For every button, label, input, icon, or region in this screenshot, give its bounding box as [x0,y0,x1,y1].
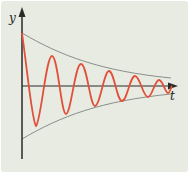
lower-envelope [22,94,171,139]
y-axis-label: y [9,11,16,25]
oscillation-curve [22,33,172,126]
figure-panel: y t [1,1,188,172]
upper-envelope [22,33,171,78]
damped-oscillation-plot [1,1,188,172]
y-axis-arrow-icon [19,7,26,17]
t-axis-label: t [170,89,175,103]
